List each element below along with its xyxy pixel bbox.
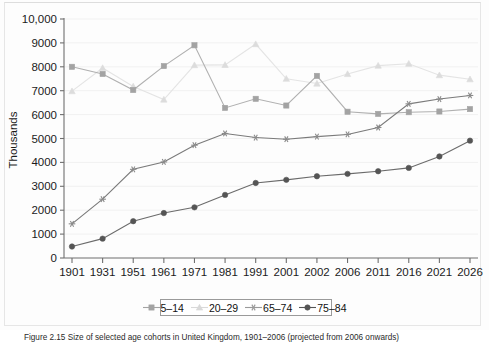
series-75-84 <box>69 138 472 249</box>
data-point-asterisk <box>222 131 229 137</box>
y-tick-label: 6000 <box>31 109 57 121</box>
y-tick-label: 8000 <box>31 61 57 73</box>
data-point-square <box>253 96 258 101</box>
data-point-square <box>345 109 350 114</box>
y-tick-label: 9000 <box>31 37 57 49</box>
x-tick-label: 2011 <box>366 266 391 278</box>
legend-entry[interactable]: 65–74 <box>245 302 295 314</box>
legend-entry[interactable]: 75–84 <box>299 302 349 314</box>
x-tick-label: 1981 <box>212 266 238 278</box>
data-point-circle <box>314 174 319 179</box>
y-tick-label: 7000 <box>31 85 57 97</box>
data-point-triangle <box>99 65 105 71</box>
x-tick-label: 1901 <box>59 266 85 278</box>
data-point-asterisk <box>161 159 168 165</box>
data-point-square <box>437 109 442 114</box>
data-point-asterisk <box>283 136 290 142</box>
data-point-asterisk <box>191 142 198 148</box>
x-tick-label: 2026 <box>457 266 483 278</box>
data-point-asterisk <box>250 305 257 311</box>
figure-caption: Figure 2.15 Size of selected age cohorts… <box>24 333 483 343</box>
data-point-circle <box>131 218 136 223</box>
chart-plot-area: 010002000300040005000600070008000900010,… <box>0 0 489 290</box>
data-point-circle <box>161 210 166 215</box>
data-point-circle <box>467 138 472 143</box>
x-axis-ticks: 1901193119511961197119811991200120022006… <box>59 258 483 278</box>
data-point-circle <box>406 165 411 170</box>
legend-marker-circle-icon <box>299 302 316 313</box>
data-point-circle <box>345 171 350 176</box>
data-point-circle <box>222 192 227 197</box>
y-tick-label: 0 <box>51 252 57 264</box>
y-tick-label: 2000 <box>31 204 57 216</box>
legend-label: 20–29 <box>209 302 238 314</box>
x-tick-label: 2021 <box>427 266 453 278</box>
data-point-square <box>69 64 74 69</box>
y-tick-label: 4000 <box>31 156 57 168</box>
data-point-circle <box>284 177 289 182</box>
data-point-square <box>284 103 289 108</box>
data-point-square <box>161 63 166 68</box>
legend-label: 65–74 <box>263 302 292 314</box>
legend-marker-square-icon <box>143 302 160 313</box>
data-point-circle <box>253 180 258 185</box>
x-tick-label: 1961 <box>151 266 177 278</box>
data-point-square <box>192 43 197 48</box>
data-point-circle <box>375 169 380 174</box>
y-axis-ticks: 010002000300040005000600070008000900010,… <box>22 13 64 264</box>
legend-entry[interactable]: 20–29 <box>191 302 241 314</box>
x-tick-label: 1971 <box>182 266 208 278</box>
data-point-circle <box>69 244 74 249</box>
data-point-square <box>148 305 153 310</box>
series-65-74 <box>69 93 474 227</box>
data-point-asterisk <box>344 132 351 138</box>
data-point-asterisk <box>436 96 443 102</box>
data-point-circle <box>305 305 310 310</box>
data-point-triangle <box>252 41 258 47</box>
data-point-square <box>406 110 411 115</box>
y-tick-label: 10,000 <box>22 13 57 25</box>
data-point-square <box>467 107 472 112</box>
data-point-circle <box>437 154 442 159</box>
data-point-square <box>131 87 136 92</box>
legend-label: 5–14 <box>161 302 184 314</box>
x-tick-label: 1991 <box>243 266 269 278</box>
legend-marker-asterisk-icon <box>245 302 262 313</box>
x-tick-label: 2002 <box>304 266 330 278</box>
y-tick-label: 3000 <box>31 180 57 192</box>
series-20-29 <box>69 41 473 102</box>
data-point-square <box>100 71 105 76</box>
x-tick-label: 2006 <box>335 266 361 278</box>
data-point-square <box>376 111 381 116</box>
data-series <box>69 41 474 249</box>
x-tick-label: 2001 <box>274 266 300 278</box>
data-point-asterisk <box>467 93 474 99</box>
y-tick-label: 1000 <box>31 228 57 240</box>
data-point-square <box>222 105 227 110</box>
y-axis-title: Thousands <box>7 111 19 168</box>
x-tick-label: 1931 <box>90 266 116 278</box>
figure-panel: 010002000300040005000600070008000900010,… <box>0 0 489 330</box>
y-tick-label: 5000 <box>31 133 57 145</box>
grid-lines <box>64 19 478 234</box>
series-line <box>72 141 470 247</box>
legend-marker-triangle-icon <box>191 302 208 313</box>
data-point-asterisk <box>252 135 259 141</box>
chart-legend[interactable]: 5–1420–2965–7475–84 <box>160 299 332 316</box>
data-point-square <box>314 73 319 78</box>
series-5-14 <box>69 43 472 117</box>
legend-entry[interactable]: 5–14 <box>143 302 187 314</box>
data-point-circle <box>192 205 197 210</box>
x-tick-label: 2016 <box>396 266 422 278</box>
line-chart: 010002000300040005000600070008000900010,… <box>0 0 489 290</box>
legend-label: 75–84 <box>317 302 346 314</box>
data-point-circle <box>100 236 105 241</box>
x-tick-label: 1951 <box>120 266 146 278</box>
